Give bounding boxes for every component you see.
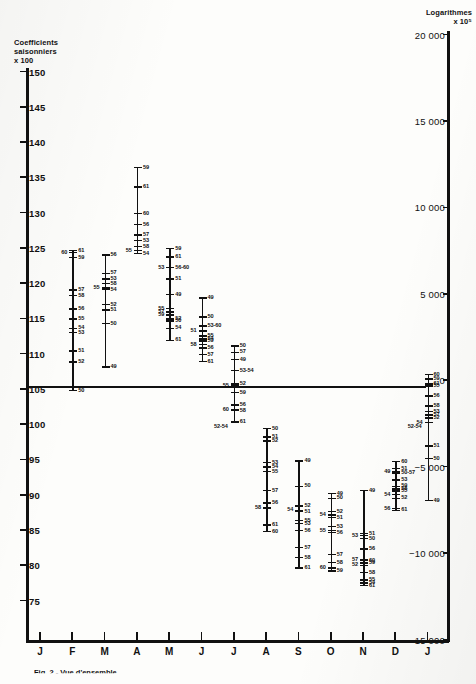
year-marker xyxy=(263,462,271,463)
year-label: 50 xyxy=(175,318,181,324)
left-tick xyxy=(20,71,27,73)
year-label: 56 xyxy=(434,393,440,399)
left-tick-label: 105 xyxy=(29,383,45,394)
year-marker xyxy=(295,505,303,506)
year-marker xyxy=(69,252,77,253)
year-marker xyxy=(102,289,110,290)
year-label: 50 xyxy=(434,456,440,462)
year-marker xyxy=(328,498,336,499)
left-tick xyxy=(20,353,27,355)
year-marker xyxy=(102,278,110,279)
month-range-line xyxy=(266,428,268,531)
year-label: 53-60 xyxy=(208,323,222,329)
year-marker xyxy=(263,524,271,525)
year-label: 54 xyxy=(111,287,117,293)
left-tick xyxy=(20,423,27,425)
year-label: 61 xyxy=(78,248,84,254)
year-marker xyxy=(328,511,336,512)
year-marker xyxy=(425,445,433,446)
year-marker xyxy=(69,295,77,296)
year-marker xyxy=(199,354,207,355)
x-tick-label-11: D xyxy=(392,646,399,657)
year-marker xyxy=(134,234,142,235)
year-label: 59 xyxy=(143,165,149,171)
year-marker xyxy=(360,538,368,539)
year-marker xyxy=(199,316,207,317)
year-marker xyxy=(263,531,271,532)
year-label: 52 xyxy=(272,438,278,444)
year-label: 56-60 xyxy=(175,265,189,271)
year-label: 50 xyxy=(304,483,310,489)
year-label: 59 xyxy=(208,338,214,344)
year-label: 58 xyxy=(143,244,149,250)
left-tick-label: 95 xyxy=(29,454,40,465)
year-label: 51 xyxy=(175,276,181,282)
year-label: 58 xyxy=(337,560,343,566)
left-tick-label: 150 xyxy=(29,66,45,77)
year-label: 61 xyxy=(175,254,181,260)
year-label: 61 xyxy=(240,419,246,425)
left-tick xyxy=(20,106,27,108)
year-label: 50-57 xyxy=(401,470,415,476)
year-label: 52 xyxy=(352,562,358,568)
year-marker xyxy=(69,257,77,258)
year-marker xyxy=(328,554,336,555)
left-tick-label: 75 xyxy=(29,595,40,606)
year-label: 50 xyxy=(272,426,278,432)
x-tick-label-0: J xyxy=(37,646,43,657)
year-label: 58 xyxy=(369,570,375,576)
left-tick-label: 140 xyxy=(29,137,45,148)
year-label: 54 xyxy=(384,492,390,498)
year-marker xyxy=(425,500,433,501)
year-label: 54 xyxy=(287,507,293,513)
year-marker xyxy=(263,502,271,503)
left-tick xyxy=(20,176,27,178)
year-marker xyxy=(166,278,174,279)
year-marker xyxy=(392,494,400,495)
chart-annotation: 52-54 xyxy=(214,424,228,430)
year-label: 51 xyxy=(434,443,440,449)
year-marker xyxy=(425,405,433,406)
year-label: 57 xyxy=(304,545,310,551)
year-marker xyxy=(360,490,368,491)
figure-caption: Fig. 2 - Vue d'ensemble xyxy=(34,668,117,677)
year-marker xyxy=(69,328,77,329)
x-tick xyxy=(39,632,41,641)
year-marker xyxy=(199,340,207,341)
year-marker xyxy=(425,417,433,418)
year-label: 50 xyxy=(337,495,343,501)
x-tick-label-12: J xyxy=(425,646,431,657)
year-marker xyxy=(69,361,77,362)
year-label: 59 xyxy=(78,255,84,261)
year-marker xyxy=(425,395,433,396)
year-label: 54 xyxy=(175,325,181,331)
x-tick xyxy=(394,632,396,641)
x-tick-label-2: M xyxy=(100,646,108,657)
year-label: 54 xyxy=(320,512,326,518)
year-label: 59 xyxy=(158,312,164,318)
year-label: 49 xyxy=(304,458,310,464)
year-label: 60 xyxy=(61,250,67,256)
year-marker xyxy=(199,361,207,362)
year-marker xyxy=(231,359,239,360)
left-tick-label: 85 xyxy=(29,524,40,535)
year-marker xyxy=(134,246,142,247)
year-marker xyxy=(69,390,77,391)
year-marker xyxy=(102,254,110,255)
year-marker xyxy=(69,289,77,290)
year-marker xyxy=(134,167,142,168)
year-marker xyxy=(328,493,336,494)
year-marker xyxy=(360,565,368,566)
year-label: 52 xyxy=(434,415,440,421)
year-label: 50 xyxy=(78,388,84,394)
year-marker xyxy=(166,248,174,249)
year-marker xyxy=(166,311,174,312)
left-tick xyxy=(20,318,27,320)
year-marker xyxy=(295,530,303,531)
year-marker xyxy=(199,325,207,326)
left-axis-title: Coefficients saisonniers x 100 xyxy=(14,38,58,65)
year-marker xyxy=(263,466,271,467)
year-label: 52 xyxy=(240,381,246,387)
left-tick-label: 135 xyxy=(29,172,45,183)
x-tick-label-3: A xyxy=(133,646,140,657)
